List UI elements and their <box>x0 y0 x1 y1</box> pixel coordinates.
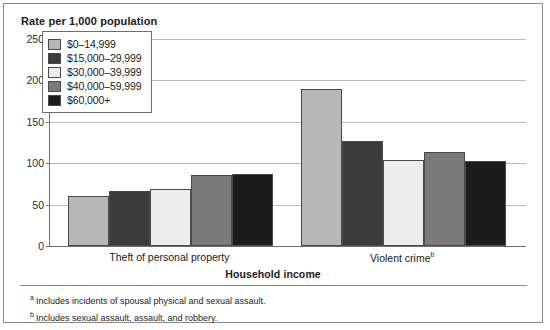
footnote-list: aIncludes incidents of spousal physical … <box>30 291 520 325</box>
chart-legend: $0–14,999$15,000–29,999$30,000–39,999$40… <box>42 31 152 113</box>
bar <box>232 174 273 246</box>
legend-item: $15,000–29,999 <box>48 51 142 65</box>
bar <box>424 152 465 246</box>
legend-label: $0–14,999 <box>67 38 116 50</box>
legend-swatch-icon <box>48 95 61 106</box>
bar <box>342 141 383 246</box>
footnote-marker: a <box>30 294 34 301</box>
y-axis-tick-mark <box>46 246 50 247</box>
bar <box>68 196 109 247</box>
chart-title: Rate per 1,000 population <box>21 15 157 27</box>
bar <box>383 160 424 246</box>
y-axis-tick-mark <box>46 163 50 164</box>
bar <box>150 189 191 246</box>
footnote: aIncludes incidents of spousal physical … <box>30 291 520 308</box>
legend-swatch-icon <box>48 39 61 50</box>
bar <box>109 191 150 246</box>
legend-swatch-icon <box>48 81 61 92</box>
y-axis-tick-label: 0 <box>38 240 44 252</box>
x-axis-category-label: Violent crimeb <box>370 251 434 264</box>
legend-item: $60,000+ <box>48 93 142 107</box>
legend-swatch-icon <box>48 53 61 64</box>
legend-swatch-icon <box>48 67 61 78</box>
legend-item: $30,000–39,999 <box>48 65 142 79</box>
x-axis-title: Household income <box>4 268 542 280</box>
chart-figure: Rate per 1,000 population 05010015020025… <box>3 3 543 323</box>
legend-label: $15,000–29,999 <box>67 52 142 64</box>
y-axis-tick-mark <box>46 122 50 123</box>
footnote-divider <box>20 285 527 286</box>
footnote: bIncludes sexual assault, assault, and r… <box>30 308 520 325</box>
y-axis-tick-mark <box>46 205 50 206</box>
footnote-marker: b <box>430 251 434 258</box>
footnote-marker: b <box>30 311 34 318</box>
bar <box>191 175 232 246</box>
x-axis-category-label: Theft of personal property <box>109 251 229 263</box>
legend-item: $40,000–59,999 <box>48 79 142 93</box>
legend-label: $40,000–59,999 <box>67 80 142 92</box>
legend-label: $30,000–39,999 <box>67 66 142 78</box>
bar <box>301 89 342 246</box>
legend-item: $0–14,999 <box>48 37 142 51</box>
y-axis-tick-label: 50 <box>32 199 44 211</box>
y-axis-tick-label: 100 <box>26 157 44 169</box>
y-axis-tick-label: 150 <box>26 116 44 128</box>
legend-label: $60,000+ <box>67 94 110 106</box>
bar-group <box>301 39 506 246</box>
bar <box>465 161 506 246</box>
